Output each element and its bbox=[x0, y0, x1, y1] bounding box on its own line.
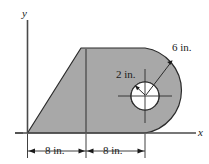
dim-arrow-left-start-icon bbox=[29, 149, 36, 154]
outer-radius-label: 6 in. bbox=[172, 42, 192, 53]
figure-canvas: y x 6 in. 2 in. 8 in. 8 in. bbox=[0, 0, 209, 164]
dim-arrow-right-start-icon bbox=[87, 149, 94, 154]
dim-arrow-right-end-icon bbox=[138, 149, 145, 154]
dim-arrow-left-end-icon bbox=[79, 149, 86, 154]
hole-radius-label: 2 in. bbox=[116, 69, 136, 80]
dimension-label-left: 8 in. bbox=[45, 145, 65, 156]
dimension-label-right: 8 in. bbox=[103, 145, 123, 156]
y-axis-label: y bbox=[22, 8, 27, 19]
x-axis-label: x bbox=[198, 127, 203, 138]
diagram-svg bbox=[0, 0, 209, 164]
